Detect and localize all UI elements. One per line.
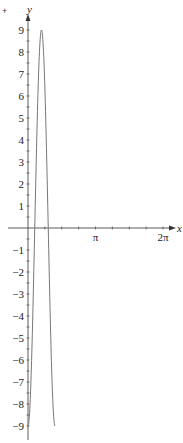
y-tick-label: −4	[12, 310, 24, 322]
x-tick-label: π	[93, 231, 99, 243]
y-tick-label: 6	[19, 90, 25, 102]
y-tick-label: 4	[19, 134, 25, 146]
y-tick-label: 8	[19, 46, 25, 58]
y-tick-label: −8	[12, 398, 24, 410]
y-tick-label: 9	[19, 24, 25, 36]
y-tick-label: 7	[19, 68, 25, 80]
y-tick-label: −9	[12, 420, 24, 432]
x-axis-label: x	[176, 222, 182, 234]
y-tick-label: −7	[12, 376, 24, 388]
y-axis-arrow-icon	[26, 14, 31, 21]
x-axis-arrow-icon	[169, 226, 176, 231]
x-tick-label: 2π	[157, 231, 169, 243]
chart-plot: 987654321−1−2−3−4−5−6−7−8−9 π2π x y	[0, 0, 183, 443]
y-tick-label: 2	[19, 178, 25, 190]
y-tick-label: 3	[19, 156, 25, 168]
y-tick-label: −6	[12, 354, 24, 366]
y-tick-label: −2	[12, 266, 24, 278]
x-axis-ticks: π2π	[45, 227, 169, 244]
y-tick-label: −1	[12, 244, 24, 256]
y-axis-label: y	[26, 3, 32, 15]
y-tick-label: −5	[12, 332, 24, 344]
y-tick-label: 5	[19, 112, 25, 124]
y-tick-label: 1	[19, 200, 25, 212]
y-tick-label: −3	[12, 288, 24, 300]
